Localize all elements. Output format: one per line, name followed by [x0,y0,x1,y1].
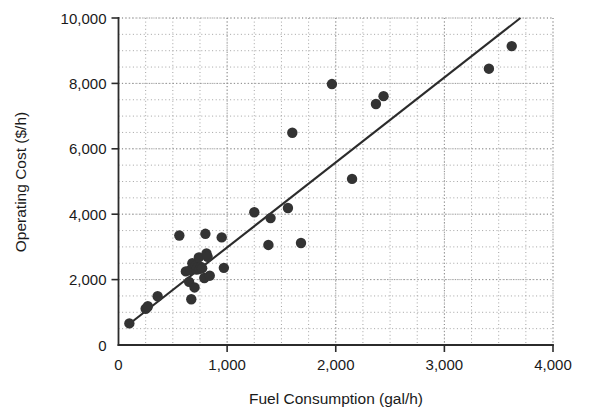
y-tick-label: 2,000 [69,271,107,288]
data-point [200,229,210,239]
data-point [287,128,297,138]
data-point [265,213,275,223]
data-point [296,238,306,248]
data-point [205,270,215,280]
data-point [219,263,229,273]
data-point [484,63,494,73]
scatter-chart: 02,0004,0006,0008,00010,00001,0002,0003,… [0,0,593,415]
data-point [327,79,337,89]
data-point [143,301,153,311]
data-point [216,232,226,242]
x-tick-label: 3,000 [426,356,464,373]
y-tick-label: 0 [98,337,106,354]
x-tick-label: 0 [114,356,122,373]
y-tick-label: 6,000 [69,140,107,157]
data-point [186,294,196,304]
y-tick-label: 4,000 [69,206,107,223]
data-point [152,291,162,301]
data-point [249,207,259,217]
data-point [507,41,517,51]
data-point [202,252,212,262]
data-point [378,91,388,101]
y-tick-label: 8,000 [69,75,107,92]
data-point [197,263,207,273]
data-point [283,203,293,213]
x-tick-label: 2,000 [317,356,355,373]
data-point [124,318,134,328]
x-tick-label: 1,000 [208,356,246,373]
chart-canvas: 02,0004,0006,0008,00010,00001,0002,0003,… [0,0,593,415]
data-points [124,41,517,329]
data-point [347,174,357,184]
y-axis-title: Operating Cost ($/h) [12,112,29,252]
data-point [174,230,184,240]
x-axis-title: Fuel Consumption (gal/h) [249,390,423,407]
x-tick-label: 4,000 [534,356,572,373]
data-point [263,240,273,250]
data-point [189,282,199,292]
data-point [371,99,381,109]
y-tick-label: 10,000 [61,10,107,27]
